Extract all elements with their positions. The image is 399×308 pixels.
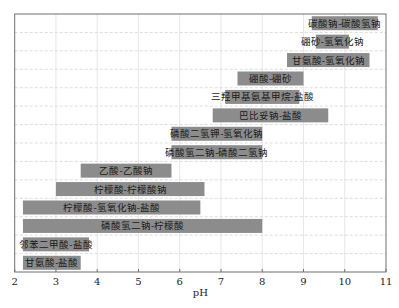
range-bar: 磷酸氢二钠-磷酸二氢钠 <box>165 145 268 159</box>
tick-label: 10 <box>338 276 351 287</box>
range-bar: 柠檬酸-柠檬酸钠 <box>56 182 205 196</box>
tick-label: 11 <box>380 276 393 287</box>
grid <box>15 14 386 272</box>
bar-label: 硼砂-氢氧化钠 <box>301 36 364 47</box>
range-bar: 乙酸-乙酸钠 <box>81 164 172 178</box>
bar-label: 硼酸-硼砂 <box>249 73 292 84</box>
bar-label: 巴比妥钠-盐酸 <box>239 110 302 121</box>
tick-label: 6 <box>177 276 183 287</box>
tick-label: 7 <box>218 276 224 287</box>
buffer-ph-range-chart: 碳酸钠-碳酸氢钠硼砂-氢氧化钠甘氨酸-氢氧化钠硼酸-硼砂三羟甲基氨基甲烷-盐酸巴… <box>0 0 399 308</box>
range-bar: 硼酸-硼砂 <box>237 72 303 86</box>
range-bar: 磷酸二氢钾-氢氧化钠 <box>170 127 263 141</box>
bar-label: 邻苯二甲酸-盐酸 <box>19 239 92 250</box>
bar-label: 柠檬酸-柠檬酸钠 <box>94 184 167 195</box>
range-bar: 甘氨酸-氢氧化钠 <box>287 53 370 67</box>
range-bar: 柠檬酸-氢氧化钠-盐酸 <box>23 201 200 215</box>
bar-label: 乙酸-乙酸钠 <box>99 165 152 176</box>
range-bar: 磷酸氢二钠-柠檬酸 <box>23 219 262 233</box>
range-bar: 三羟甲基氨基甲烷-盐酸 <box>211 90 314 104</box>
range-bar: 硼砂-氢氧化钠 <box>301 35 364 49</box>
bar-label: 柠檬酸-氢氧化钠-盐酸 <box>63 202 159 213</box>
tick-label: 3 <box>53 276 59 287</box>
bar-label: 甘氨酸-盐酸 <box>25 257 78 268</box>
x-axis-title: pH <box>193 287 208 298</box>
range-bar: 巴比妥钠-盐酸 <box>213 108 329 122</box>
bar-label: 三羟甲基氨基甲烷-盐酸 <box>211 91 314 102</box>
range-bar: 邻苯二甲酸-盐酸 <box>19 237 92 251</box>
tick-label: 2 <box>12 276 18 287</box>
range-bar: 碳酸钠-碳酸氢钠 <box>308 16 381 30</box>
tick-label: 8 <box>259 276 265 287</box>
bar-label: 磷酸氢二钠-磷酸二氢钠 <box>165 147 268 158</box>
tick-label: 9 <box>300 276 306 287</box>
bar-label: 碳酸钠-碳酸氢钠 <box>308 18 381 29</box>
bar-label: 磷酸二氢钾-氢氧化钠 <box>170 128 263 139</box>
bar-label: 甘氨酸-氢氧化钠 <box>292 55 365 66</box>
tick-label: 5 <box>135 276 141 287</box>
bar-label: 磷酸氢二钠-柠檬酸 <box>101 220 184 231</box>
tick-label: 4 <box>94 276 100 287</box>
range-bar: 甘氨酸-盐酸 <box>23 256 81 270</box>
